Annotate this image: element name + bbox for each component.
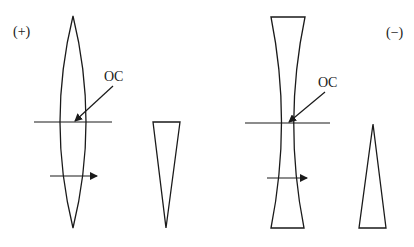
plus-sign-label: (+) — [13, 24, 31, 40]
optical-centre-label: OC — [318, 75, 337, 90]
optical-centre-label: OC — [104, 69, 123, 84]
lens-diagram: (+) OC (−) OC — [0, 0, 414, 247]
base-up-prism — [153, 122, 180, 228]
plus-lens-panel: (+) OC — [13, 16, 180, 228]
minus-sign-label: (−) — [386, 25, 404, 41]
base-down-prism — [359, 124, 386, 228]
minus-lens-panel: (−) OC — [245, 17, 404, 228]
optical-centre-pointer-arrow — [75, 86, 113, 121]
